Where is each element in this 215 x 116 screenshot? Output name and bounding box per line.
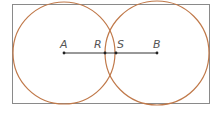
label-b: B — [153, 38, 161, 51]
label-a: A — [59, 38, 68, 51]
point-s — [115, 52, 118, 55]
point-a — [63, 52, 66, 55]
point-r — [104, 52, 107, 55]
bounding-rectangle — [13, 5, 210, 104]
point-b — [156, 52, 159, 55]
label-r: R — [94, 38, 102, 51]
label-s: S — [117, 38, 124, 51]
geometry-diagram: A R S B — [0, 0, 215, 116]
